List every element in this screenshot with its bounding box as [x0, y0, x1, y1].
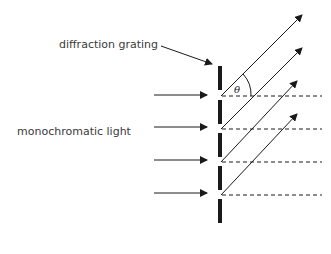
grating: [218, 66, 222, 223]
angle-arc: [243, 74, 251, 96]
diffracted-arrow: [221, 81, 297, 162]
diffraction-diagram: diffraction grating monochromatic light …: [0, 0, 331, 254]
diffracted-light: [221, 15, 302, 195]
grating-pointer-arrow: [161, 46, 212, 64]
diffracted-arrow: [221, 114, 297, 195]
grating-bar: [218, 66, 222, 90]
incident-light: [154, 95, 207, 193]
light-label: monochromatic light: [17, 125, 132, 138]
grating-bar: [218, 100, 222, 124]
grating-bar: [218, 166, 222, 190]
grating-bar: [218, 133, 222, 157]
grating-label: diffraction grating: [59, 38, 158, 51]
theta-label: θ: [234, 84, 240, 95]
grating-bar: [218, 199, 222, 223]
